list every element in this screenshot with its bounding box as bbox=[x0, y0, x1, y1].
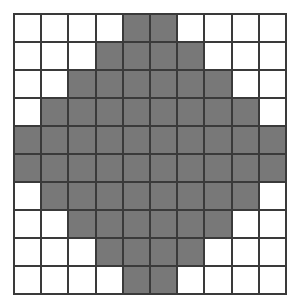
grid-cell-r2-c7 bbox=[205, 71, 230, 97]
grid-cell-r9-c6 bbox=[178, 267, 203, 293]
grid-cell-r7-c0 bbox=[15, 211, 40, 237]
grid-cell-r0-c6 bbox=[178, 15, 203, 41]
grid-cell-r7-c7 bbox=[205, 211, 230, 237]
grid-cell-r9-c5 bbox=[151, 267, 176, 293]
grid-cell-r3-c1 bbox=[42, 99, 67, 125]
grid-cell-r5-c3 bbox=[97, 155, 122, 181]
grid-cell-r0-c9 bbox=[260, 15, 285, 41]
grid-cell-r9-c8 bbox=[233, 267, 258, 293]
grid-cell-r7-c8 bbox=[233, 211, 258, 237]
grid-cell-r3-c7 bbox=[205, 99, 230, 125]
grid-cell-r3-c3 bbox=[97, 99, 122, 125]
grid-cell-r2-c5 bbox=[151, 71, 176, 97]
grid-cell-r1-c7 bbox=[205, 43, 230, 69]
grid-cell-r4-c9 bbox=[260, 127, 285, 153]
grid-cell-r0-c3 bbox=[97, 15, 122, 41]
pixel-grid bbox=[13, 13, 287, 295]
grid-cell-r6-c0 bbox=[15, 183, 40, 209]
grid-cell-r7-c3 bbox=[97, 211, 122, 237]
grid-cell-r0-c2 bbox=[69, 15, 94, 41]
grid-cell-r6-c4 bbox=[124, 183, 149, 209]
grid-cell-r2-c3 bbox=[97, 71, 122, 97]
grid-cell-r2-c8 bbox=[233, 71, 258, 97]
grid-cell-r8-c2 bbox=[69, 239, 94, 265]
grid-cell-r5-c6 bbox=[178, 155, 203, 181]
grid-cell-r8-c7 bbox=[205, 239, 230, 265]
grid-cell-r2-c6 bbox=[178, 71, 203, 97]
grid-cell-r6-c2 bbox=[69, 183, 94, 209]
grid-cell-r4-c1 bbox=[42, 127, 67, 153]
grid-cell-r3-c6 bbox=[178, 99, 203, 125]
grid-cell-r2-c2 bbox=[69, 71, 94, 97]
grid-cell-r6-c3 bbox=[97, 183, 122, 209]
grid-cell-r0-c4 bbox=[124, 15, 149, 41]
grid-cell-r6-c8 bbox=[233, 183, 258, 209]
grid-cell-r6-c7 bbox=[205, 183, 230, 209]
grid-cell-r1-c4 bbox=[124, 43, 149, 69]
grid-cell-r8-c9 bbox=[260, 239, 285, 265]
grid-cell-r6-c6 bbox=[178, 183, 203, 209]
grid-cell-r1-c8 bbox=[233, 43, 258, 69]
grid-cell-r3-c8 bbox=[233, 99, 258, 125]
grid-cell-r5-c8 bbox=[233, 155, 258, 181]
grid-cell-r3-c5 bbox=[151, 99, 176, 125]
grid-cell-r5-c2 bbox=[69, 155, 94, 181]
grid-cell-r9-c1 bbox=[42, 267, 67, 293]
grid-cell-r9-c0 bbox=[15, 267, 40, 293]
grid-cell-r1-c5 bbox=[151, 43, 176, 69]
grid-cell-r6-c9 bbox=[260, 183, 285, 209]
grid-cell-r7-c4 bbox=[124, 211, 149, 237]
grid-cell-r4-c0 bbox=[15, 127, 40, 153]
grid-cell-r7-c6 bbox=[178, 211, 203, 237]
grid-cell-r5-c5 bbox=[151, 155, 176, 181]
grid-cell-r3-c0 bbox=[15, 99, 40, 125]
grid-cell-r1-c0 bbox=[15, 43, 40, 69]
grid-cell-r0-c7 bbox=[205, 15, 230, 41]
grid-cell-r2-c4 bbox=[124, 71, 149, 97]
grid-cell-r4-c7 bbox=[205, 127, 230, 153]
grid-cell-r1-c2 bbox=[69, 43, 94, 69]
grid-cell-r4-c3 bbox=[97, 127, 122, 153]
grid-cell-r7-c5 bbox=[151, 211, 176, 237]
grid-cell-r9-c7 bbox=[205, 267, 230, 293]
grid-cell-r0-c8 bbox=[233, 15, 258, 41]
grid-cell-r0-c0 bbox=[15, 15, 40, 41]
grid-cell-r5-c9 bbox=[260, 155, 285, 181]
grid-cell-r1-c9 bbox=[260, 43, 285, 69]
grid-cell-r9-c3 bbox=[97, 267, 122, 293]
grid-cell-r0-c1 bbox=[42, 15, 67, 41]
grid-cell-r8-c3 bbox=[97, 239, 122, 265]
grid-cell-r3-c9 bbox=[260, 99, 285, 125]
grid-cell-r8-c8 bbox=[233, 239, 258, 265]
grid-cell-r8-c5 bbox=[151, 239, 176, 265]
raster-grid-figure bbox=[0, 0, 299, 308]
grid-cell-r0-c5 bbox=[151, 15, 176, 41]
grid-cell-r4-c8 bbox=[233, 127, 258, 153]
grid-cell-r8-c6 bbox=[178, 239, 203, 265]
grid-cell-r8-c4 bbox=[124, 239, 149, 265]
grid-cell-r3-c2 bbox=[69, 99, 94, 125]
grid-cell-r7-c1 bbox=[42, 211, 67, 237]
grid-cell-r1-c6 bbox=[178, 43, 203, 69]
grid-cell-r4-c5 bbox=[151, 127, 176, 153]
grid-cell-r6-c5 bbox=[151, 183, 176, 209]
grid-cell-r3-c4 bbox=[124, 99, 149, 125]
grid-cell-r4-c2 bbox=[69, 127, 94, 153]
grid-cell-r8-c0 bbox=[15, 239, 40, 265]
grid-cell-r1-c3 bbox=[97, 43, 122, 69]
grid-cell-r5-c0 bbox=[15, 155, 40, 181]
grid-cell-r5-c1 bbox=[42, 155, 67, 181]
grid-cell-r5-c4 bbox=[124, 155, 149, 181]
grid-cell-r7-c9 bbox=[260, 211, 285, 237]
grid-cell-r4-c6 bbox=[178, 127, 203, 153]
grid-cell-r2-c1 bbox=[42, 71, 67, 97]
grid-cell-r7-c2 bbox=[69, 211, 94, 237]
grid-cell-r9-c2 bbox=[69, 267, 94, 293]
grid-cell-r8-c1 bbox=[42, 239, 67, 265]
grid-cell-r9-c4 bbox=[124, 267, 149, 293]
grid-cell-r5-c7 bbox=[205, 155, 230, 181]
grid-cell-r4-c4 bbox=[124, 127, 149, 153]
grid-cell-r9-c9 bbox=[260, 267, 285, 293]
grid-cell-r6-c1 bbox=[42, 183, 67, 209]
grid-cell-r2-c0 bbox=[15, 71, 40, 97]
